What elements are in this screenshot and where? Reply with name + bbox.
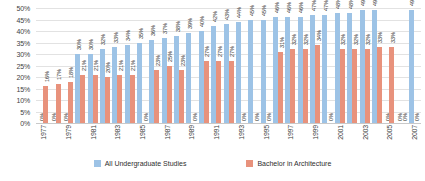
y-axis-tick-label: 5% — [20, 108, 30, 115]
bar-value-label: 46% — [286, 2, 292, 13]
bar-group: 0%33% — [383, 8, 395, 123]
bar: 21% — [93, 75, 98, 123]
bar-group: 40%27% — [198, 8, 210, 123]
bar-group: 46%32% — [284, 8, 296, 123]
y-axis-tick-label: 40% — [17, 28, 30, 35]
bar-group: 49%32% — [358, 8, 370, 123]
bar-value-label: 34% — [125, 30, 131, 41]
bar-value-label: 46% — [298, 2, 304, 13]
bar-value-label: 44% — [236, 7, 242, 18]
bar-value-label: 46% — [274, 2, 280, 13]
x-axis-tick-label: 1981 — [89, 125, 96, 140]
bar-value-label: 35% — [138, 28, 144, 39]
bar-group: 39%0% — [185, 8, 197, 123]
bar-group: 49%33% — [371, 8, 383, 123]
bar: 27% — [229, 61, 234, 123]
bar-value-label: 49% — [360, 0, 366, 6]
bar-group: 46%31% — [272, 8, 284, 123]
x-axis-slot — [99, 124, 111, 154]
x-axis-slot: 1995 — [259, 124, 271, 154]
bar-group: 45%0% — [247, 8, 259, 123]
plot-area: 0%16%0%17%0%18%30%21%30%21%32%20%33%21%3… — [36, 8, 421, 123]
x-axis-tick-label: 1997 — [287, 125, 294, 140]
y-axis-tick-label: 10% — [17, 97, 30, 104]
x-axis-tick-label: 1979 — [64, 125, 71, 140]
x-axis-slot — [247, 124, 259, 154]
bar: 35% — [137, 43, 142, 124]
bar: 49% — [409, 10, 414, 123]
bar: 31% — [278, 52, 283, 123]
bar: 32% — [352, 49, 357, 123]
bar: 23% — [154, 70, 159, 123]
bar-group: 36%23% — [148, 8, 160, 123]
x-axis-tick-label: 1999 — [312, 125, 319, 140]
bar: 32% — [340, 49, 345, 123]
bar-value-label: 43% — [224, 9, 230, 20]
y-axis-tick-label: 45% — [17, 16, 30, 23]
bar: 25% — [167, 66, 172, 124]
x-axis-tick-label: 1991 — [213, 125, 220, 140]
bar: 27% — [216, 61, 221, 123]
bar: 39% — [186, 33, 191, 123]
x-axis-slot — [49, 124, 61, 154]
bar-group: 0%0% — [395, 8, 407, 123]
bar-value-label: 49% — [372, 0, 378, 6]
legend-label: All Undergraduate Studies — [105, 160, 187, 167]
bar-value-label: 0% — [414, 113, 420, 121]
x-axis-slot: 1981 — [86, 124, 98, 154]
x-axis-slot: 1999 — [309, 124, 321, 154]
bar: 27% — [204, 61, 209, 123]
x-axis-slot: 1979 — [62, 124, 74, 154]
bar-value-label: 39% — [187, 19, 193, 30]
x-axis-tick-label: 2001 — [336, 125, 343, 140]
x-axis-tick-label: 1993 — [237, 125, 244, 140]
bar: 33% — [389, 47, 394, 123]
y-axis-tick-label: 50% — [17, 5, 30, 12]
x-axis-slot: 1989 — [185, 124, 197, 154]
x-axis-slot — [148, 124, 160, 154]
bar: 47% — [322, 15, 327, 123]
x-axis-slot: 1985 — [136, 124, 148, 154]
bar: 16% — [43, 86, 48, 123]
x-axis-slot — [198, 124, 210, 154]
bar-value-label: 30% — [88, 39, 94, 50]
x-axis-slot — [371, 124, 383, 154]
x-axis-slot — [346, 124, 358, 154]
bar-value-label: 42% — [212, 12, 218, 23]
bar: 45% — [248, 20, 253, 124]
x-axis-slot — [222, 124, 234, 154]
bar-group: 33%21% — [111, 8, 123, 123]
bar-group: 34%21% — [124, 8, 136, 123]
bar: 20% — [105, 77, 110, 123]
bar-group: 35%0% — [136, 8, 148, 123]
bar-group: 49%0% — [408, 8, 420, 123]
bar-group: 43%27% — [222, 8, 234, 123]
legend-item[interactable]: All Undergraduate Studies — [94, 160, 187, 167]
bar-group: 46%32% — [297, 8, 309, 123]
x-axis-slot — [74, 124, 86, 154]
bar: 21% — [130, 75, 135, 123]
bar: 18% — [68, 82, 73, 123]
bar: 44% — [236, 22, 241, 123]
bar-group: 48%32% — [334, 8, 346, 123]
x-axis-tick-label: 2007 — [410, 125, 417, 140]
legend-item[interactable]: Bachelor in Architecture — [246, 160, 331, 167]
bar-group: 44%0% — [235, 8, 247, 123]
x-axis-slot: 1993 — [235, 124, 247, 154]
bar: 32% — [290, 49, 295, 123]
bar-group: 0%17% — [49, 8, 61, 123]
x-axis-slot: 1977 — [37, 124, 49, 154]
x-axis-slot: 2001 — [334, 124, 346, 154]
bar-group: 47%0% — [321, 8, 333, 123]
bar-value-label: 37% — [162, 23, 168, 34]
bar-group: 45%0% — [259, 8, 271, 123]
y-axis-tick-label: 30% — [17, 51, 30, 58]
x-axis-slot — [297, 124, 309, 154]
bar: 32% — [303, 49, 308, 123]
x-axis-tick-label: 2003 — [361, 125, 368, 140]
bar-value-label: 40% — [199, 16, 205, 27]
legend-label: Bachelor in Architecture — [257, 160, 331, 167]
legend-swatch — [246, 160, 253, 167]
bar-group: 0%16% — [37, 8, 49, 123]
bar: 21% — [80, 75, 85, 123]
